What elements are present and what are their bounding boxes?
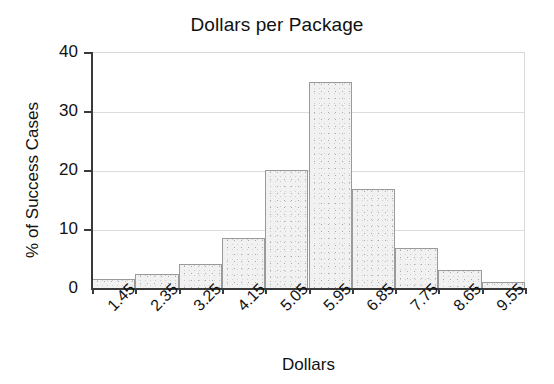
- y-axis-tick-mark: [84, 52, 93, 54]
- x-axis-tick-mark: [92, 288, 94, 294]
- y-axis-tick-label: 40: [32, 43, 78, 60]
- x-axis-tick-mark: [352, 288, 354, 294]
- x-axis-tick-mark: [222, 288, 224, 294]
- x-axis-tick-mark: [179, 288, 181, 294]
- x-axis-tick-mark: [438, 288, 440, 294]
- y-axis-tick-mark: [84, 229, 93, 231]
- chart-title: Dollars per Package: [0, 14, 554, 36]
- x-axis-tick-mark: [395, 288, 397, 294]
- y-axis-tick-label: 30: [32, 102, 78, 119]
- x-axis-tick-mark: [309, 288, 311, 294]
- x-axis-tick-mark: [265, 288, 267, 294]
- x-axis-title: Dollars: [92, 355, 525, 375]
- x-axis-tick-mark: [135, 288, 137, 294]
- plot-area: [92, 52, 525, 288]
- y-axis-tick-labels: 010203040: [26, 0, 78, 384]
- x-axis-tick-labels: 1.452.353.254.155.055.956.857.758.659.55: [92, 288, 525, 350]
- y-axis-tick-label: 10: [32, 220, 78, 237]
- y-axis-tick-label: 0: [32, 279, 78, 296]
- y-axis-tick-mark: [84, 111, 93, 113]
- bar: [309, 82, 352, 289]
- x-axis-tick-mark: [525, 288, 527, 294]
- y-axis-tick-label: 20: [32, 161, 78, 178]
- x-axis-tick-mark: [482, 288, 484, 294]
- chart-figure: Dollars per Package % of Success Cases 0…: [0, 0, 554, 384]
- y-axis-tick-mark: [84, 170, 93, 172]
